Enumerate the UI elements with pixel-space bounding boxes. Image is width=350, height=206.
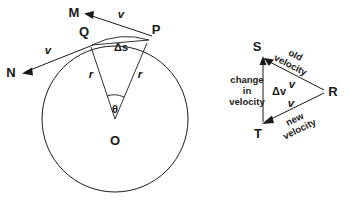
label-point-q: Q — [79, 24, 89, 39]
label-v-upper: v — [289, 78, 296, 90]
velocity-vector-q — [25, 45, 93, 72]
velocity-vector-p-arrowhead — [84, 11, 94, 19]
label-angle-theta: θ — [112, 103, 118, 115]
label-point-o: O — [110, 133, 120, 148]
label-change-line1: change — [230, 74, 263, 85]
radius-line-right — [115, 43, 147, 119]
circle-diagram: M N Q P O Δs r r θ v v — [6, 5, 188, 192]
label-radius-left: r — [89, 68, 94, 80]
angle-arc-theta — [107, 95, 124, 97]
velocity-triangle-diagram: S T R Δv change in velocity old velocity… — [229, 39, 338, 141]
label-arc-length: Δs — [114, 41, 128, 53]
label-change-line3: velocity — [229, 96, 265, 107]
label-point-n: N — [6, 65, 15, 80]
new-velocity-label-group: new velocity — [276, 106, 318, 142]
label-velocity-q: v — [45, 44, 52, 56]
label-v-lower: v — [288, 97, 295, 109]
label-vertex-s: S — [253, 39, 262, 54]
label-radius-right: r — [138, 68, 143, 80]
label-vertex-r: R — [328, 84, 338, 99]
label-vertex-t: T — [254, 126, 262, 141]
label-change-line2: in — [243, 85, 252, 96]
velocity-vector-q-arrowhead — [22, 68, 33, 76]
old-velocity-label-group: old velocity — [272, 42, 314, 78]
label-point-m: M — [69, 5, 80, 20]
label-delta-v: Δv — [272, 85, 287, 97]
delta-v-arrowhead — [260, 56, 267, 65]
physics-figure: M N Q P O Δs r r θ v v S T R Δv change i… — [0, 0, 350, 206]
label-velocity-p: v — [118, 8, 125, 20]
new-velocity-arrowhead — [262, 116, 274, 125]
label-point-p: P — [152, 22, 161, 37]
